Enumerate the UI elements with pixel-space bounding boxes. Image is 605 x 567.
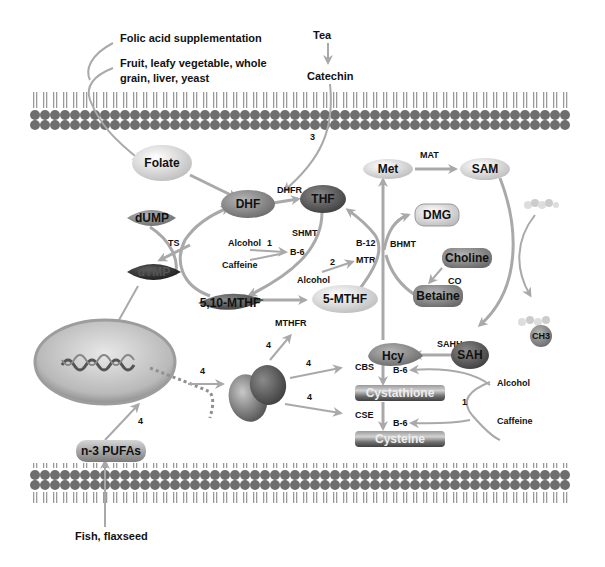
- node-thf[interactable]: THF: [300, 185, 346, 213]
- node-met[interactable]: Met: [363, 159, 413, 179]
- node-dtmp[interactable]: dTMP: [127, 264, 181, 280]
- co-label: CO: [448, 276, 462, 286]
- alcohol-modifier-2: Alcohol: [297, 275, 330, 285]
- dhf-to-thf-arrow: [273, 199, 298, 203]
- marker-4-mthfr: 4: [266, 340, 271, 350]
- b6-cse-label: B-6: [393, 418, 408, 428]
- food-source-line1: Fruit, leafy vegetable, whole: [120, 57, 267, 69]
- food-source-line2: grain, liver, yeast: [120, 72, 210, 84]
- node-5-mthf[interactable]: 5-MTHF: [312, 285, 378, 313]
- svg-text:CH3: CH3: [532, 331, 550, 341]
- svg-text:SAH: SAH: [457, 348, 482, 362]
- betaine-to-trunk-curve: [386, 255, 415, 295]
- node-hcy[interactable]: Hcy: [368, 343, 423, 366]
- b6-cbs-label: B-6: [393, 365, 408, 375]
- folic-acid-source: Folic acid supplementation: [120, 32, 262, 44]
- node-betaine[interactable]: Betaine: [413, 285, 463, 307]
- node-510-mthf[interactable]: 5,10-MTHF: [198, 294, 264, 310]
- node-cysteine[interactable]: Cysteine: [355, 431, 445, 447]
- svg-text:5-MTHF: 5-MTHF: [323, 292, 367, 306]
- caffeine-modifier-1: Caffeine: [222, 260, 258, 270]
- svg-text:Hcy: Hcy: [382, 349, 404, 363]
- methyl-transfer-arrow: [519, 215, 535, 295]
- node-dmg[interactable]: DMG: [415, 204, 459, 226]
- node-dump[interactable]: dUMP: [127, 210, 176, 226]
- bhmt-label: BHMT: [390, 239, 416, 249]
- 5mthf-to-thf-arrow: [348, 210, 379, 295]
- alcohol-caffeine-x-1: [467, 382, 500, 440]
- svg-text:5,10-MTHF: 5,10-MTHF: [200, 296, 261, 310]
- ts-label: TS: [168, 238, 180, 248]
- caffeine-to-b6-line: [250, 254, 280, 260]
- methyl-donor-molecule-icon: [524, 199, 559, 209]
- svg-text:SAM: SAM: [472, 162, 499, 176]
- node-sah[interactable]: SAH: [451, 341, 489, 369]
- node-sam[interactable]: SAM: [460, 158, 510, 180]
- node-choline[interactable]: Choline: [442, 248, 492, 268]
- cbs-label: CBS: [355, 362, 374, 372]
- ribosome-to-mthfr-arrow: [270, 336, 290, 360]
- svg-text:Met: Met: [378, 162, 399, 176]
- cse-label: CSE: [355, 410, 374, 420]
- ribosome-to-cbs-arrow: [290, 368, 340, 378]
- choline-to-betaine-arrow: [430, 268, 442, 282]
- ribosome-icon: [223, 361, 290, 426]
- svg-text:DHF: DHF: [236, 197, 261, 211]
- svg-text:Cysteine: Cysteine: [375, 432, 425, 446]
- catechin-label: Catechin: [307, 70, 354, 82]
- alcohol-to-mtr-arrow: [322, 262, 352, 272]
- folate-to-dhf-arrow: [190, 175, 235, 197]
- node-ch3[interactable]: CH3: [518, 316, 552, 347]
- dhfr-label: DHFR: [277, 185, 302, 195]
- svg-text:Betaine: Betaine: [416, 289, 460, 303]
- right-to-b6-cbs-arrow: [412, 369, 490, 385]
- node-n3-pufas[interactable]: n-3 PUFAs: [76, 440, 146, 462]
- nucleus: [35, 320, 175, 404]
- svg-text:Folate: Folate: [144, 156, 180, 170]
- folate-metabolism-diagram: Folic acid supplementation Fruit, leafy …: [0, 0, 605, 567]
- marker-4-cse: 4: [307, 392, 312, 402]
- svg-text:THF: THF: [311, 192, 334, 206]
- caffeine-modifier-right: Caffeine: [497, 416, 533, 426]
- svg-text:Cystathione: Cystathione: [366, 386, 435, 400]
- svg-text:dTMP: dTMP: [138, 265, 171, 279]
- svg-text:dUMP: dUMP: [135, 211, 169, 225]
- pufa-to-nucleus-arrow: [105, 405, 138, 440]
- marker-2: 2: [330, 257, 335, 267]
- marker-1-right: 1: [462, 397, 467, 407]
- ribosome-to-cse-arrow: [285, 404, 340, 413]
- b6-shmt-label: B-6: [290, 247, 305, 257]
- 510mthf-to-dhf-arrow: [180, 208, 228, 296]
- marker-3: 3: [310, 132, 315, 142]
- node-folate[interactable]: Folate: [132, 145, 192, 181]
- bottom-membrane: [30, 463, 570, 503]
- alcohol-modifier-1: Alcohol: [228, 238, 261, 248]
- shmt-label: SHMT: [292, 228, 318, 238]
- svg-text:Choline: Choline: [445, 251, 489, 265]
- node-cystathione[interactable]: Cystathione: [355, 385, 445, 401]
- alcohol-to-b6-arrow: [250, 250, 285, 252]
- mat-label: MAT: [420, 150, 439, 160]
- svg-text:n-3 PUFAs: n-3 PUFAs: [81, 444, 141, 458]
- tea-source: Tea: [313, 29, 332, 41]
- node-dhf[interactable]: DHF: [221, 190, 275, 218]
- alcohol-modifier-right: Alcohol: [497, 378, 530, 388]
- marker-4-cbs: 4: [306, 358, 311, 368]
- marker-1-mid: 1: [267, 238, 272, 248]
- svg-text:DMG: DMG: [423, 208, 451, 222]
- fish-flaxseed-source: Fish, flaxseed: [75, 530, 148, 542]
- mtr-label: MTR: [356, 255, 376, 265]
- b12-label: B-12: [356, 238, 376, 248]
- marker-4-pufa: 4: [138, 416, 143, 426]
- right-to-b6-cse-arrow: [412, 420, 470, 423]
- marker-4-nucleus: 4: [200, 366, 205, 376]
- mthfr-label: MTHFR: [275, 318, 307, 328]
- top-membrane: [30, 90, 570, 130]
